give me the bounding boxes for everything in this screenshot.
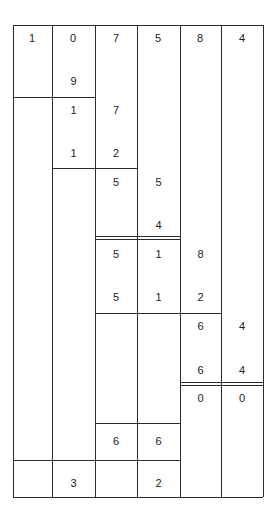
product-digit: 2 <box>149 477 169 489</box>
multiplication-table-diagram: 1 0 7 5 8 4 917125545185126464006632 <box>0 0 272 518</box>
header-digit: 8 <box>190 32 210 44</box>
separator-line <box>13 460 180 461</box>
product-digit: 5 <box>106 176 126 188</box>
product-digit: 9 <box>64 75 84 87</box>
product-digit: 0 <box>191 392 211 404</box>
product-digit: 1 <box>64 147 84 159</box>
product-digit: 4 <box>232 364 252 376</box>
separator-line <box>95 313 221 314</box>
product-digit: 5 <box>106 248 126 260</box>
separator-line <box>95 423 180 424</box>
product-digit: 6 <box>191 364 211 376</box>
product-digit: 0 <box>232 392 252 404</box>
table-bottom-border <box>13 497 263 498</box>
product-digit: 6 <box>106 435 126 447</box>
double-separator-line <box>95 236 180 240</box>
double-separator-line <box>180 382 263 386</box>
product-digit: 4 <box>149 219 169 231</box>
product-digit: 5 <box>149 176 169 188</box>
product-digit: 1 <box>149 291 169 303</box>
column-line-5 <box>221 25 222 497</box>
product-digit: 5 <box>106 291 126 303</box>
header-digit: 7 <box>106 32 126 44</box>
separator-line <box>13 97 95 98</box>
column-line-0 <box>13 25 14 497</box>
header-digit: 0 <box>63 32 83 44</box>
column-line-1 <box>52 25 53 497</box>
column-line-2 <box>95 25 96 497</box>
product-digit: 4 <box>232 320 252 332</box>
product-digit: 7 <box>106 104 126 116</box>
product-digit: 2 <box>191 291 211 303</box>
product-digit: 3 <box>64 477 84 489</box>
product-digit: 2 <box>106 147 126 159</box>
column-line-3 <box>137 25 138 497</box>
product-digit: 1 <box>64 104 84 116</box>
product-digit: 6 <box>149 435 169 447</box>
header-digit: 4 <box>232 32 252 44</box>
column-line-6 <box>263 25 264 497</box>
table-top-border <box>13 25 263 26</box>
product-digit: 8 <box>191 248 211 260</box>
header-digit: 1 <box>22 32 42 44</box>
header-digit: 5 <box>148 32 168 44</box>
product-digit: 1 <box>149 248 169 260</box>
column-line-4 <box>180 25 181 497</box>
product-digit: 6 <box>191 320 211 332</box>
separator-line <box>52 168 137 169</box>
